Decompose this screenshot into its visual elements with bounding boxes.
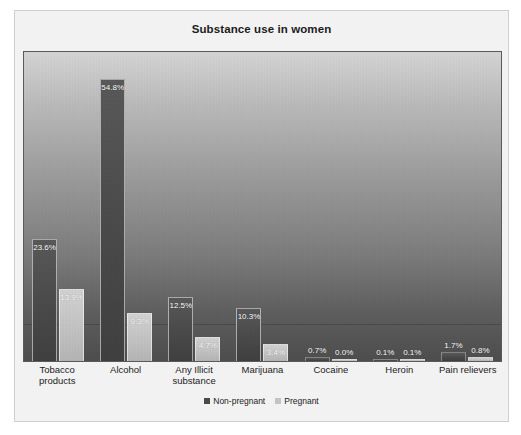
- legend-swatch-icon: [204, 398, 210, 404]
- x-axis-label: Heroin: [365, 364, 433, 386]
- bar-value-label: 9.3%: [131, 317, 149, 326]
- bar-value-label: 23.6%: [33, 243, 56, 252]
- bar[interactable]: 4.7%: [195, 337, 220, 361]
- bar[interactable]: 0.8%: [468, 357, 493, 361]
- plot-area: 23.6%13.9%54.8%9.3%12.5%4.7%10.3%3.4%0.7…: [23, 51, 502, 362]
- legend-item[interactable]: Pregnant: [275, 396, 319, 406]
- bar-value-label: 3.4%: [267, 348, 285, 357]
- chart-title: Substance use in women: [15, 23, 508, 35]
- bar-pair: 54.8%9.3%: [92, 52, 160, 361]
- bar-groups: 23.6%13.9%54.8%9.3%12.5%4.7%10.3%3.4%0.7…: [24, 52, 501, 361]
- x-axis-label: Any Illicitsubstance: [160, 364, 228, 386]
- bar-value-label: 0.1%: [376, 348, 394, 357]
- bar-value-label: 10.3%: [238, 312, 261, 321]
- bar-value-label: 4.7%: [199, 341, 217, 350]
- bar-pair: 1.7%0.8%: [433, 52, 501, 361]
- bar-group: 12.5%4.7%: [160, 52, 228, 361]
- bar-value-label: 1.7%: [444, 341, 462, 350]
- bar[interactable]: 0.7%: [305, 357, 330, 361]
- x-axis-label: Tobaccoproducts: [23, 364, 91, 386]
- bar[interactable]: 13.9%: [59, 289, 84, 361]
- chart-card: Substance use in women 23.6%13.9%54.8%9.…: [14, 10, 509, 422]
- bar-group: 23.6%13.9%: [24, 52, 92, 361]
- bar-pair: 10.3%3.4%: [228, 52, 296, 361]
- bar-group: 10.3%3.4%: [228, 52, 296, 361]
- x-axis-label: Alcohol: [91, 364, 159, 386]
- legend-item[interactable]: Non-pregnant: [204, 396, 265, 406]
- bar[interactable]: 12.5%: [168, 297, 193, 361]
- bar[interactable]: 3.4%: [263, 344, 288, 362]
- bar-value-label: 12.5%: [170, 301, 193, 310]
- bar[interactable]: 9.3%: [127, 313, 152, 361]
- bar-pair: 0.1%0.1%: [365, 52, 433, 361]
- x-axis-labels: TobaccoproductsAlcoholAny Illicitsubstan…: [23, 364, 502, 386]
- chart-legend: Non-pregnantPregnant: [15, 396, 508, 406]
- bar-value-label: 13.9%: [60, 293, 83, 302]
- bar[interactable]: 0.1%: [400, 359, 425, 361]
- bar[interactable]: 1.7%: [441, 352, 466, 361]
- bar-pair: 0.7%0.0%: [297, 52, 365, 361]
- bar-group: 54.8%9.3%: [92, 52, 160, 361]
- x-axis-label: Cocaine: [297, 364, 365, 386]
- legend-swatch-icon: [275, 398, 281, 404]
- x-axis-label: Pain relievers: [434, 364, 502, 386]
- chart-page: Substance use in women 23.6%13.9%54.8%9.…: [0, 0, 521, 435]
- bar-group: 0.1%0.1%: [365, 52, 433, 361]
- bar-pair: 12.5%4.7%: [160, 52, 228, 361]
- bar-group: 0.7%0.0%: [297, 52, 365, 361]
- bar-value-label: 0.0%: [335, 348, 353, 357]
- bar[interactable]: 23.6%: [32, 239, 57, 361]
- legend-label: Non-pregnant: [213, 396, 265, 406]
- legend-label: Pregnant: [284, 396, 319, 406]
- bar-value-label: 0.8%: [471, 346, 489, 355]
- bar[interactable]: 0.1%: [373, 359, 398, 361]
- bar[interactable]: 10.3%: [236, 308, 261, 361]
- bar-value-label: 0.1%: [403, 348, 421, 357]
- x-axis-label: Marijuana: [228, 364, 296, 386]
- bar-group: 1.7%0.8%: [433, 52, 501, 361]
- bar[interactable]: 54.8%: [100, 79, 125, 361]
- bar-value-label: 0.7%: [308, 346, 326, 355]
- bar-pair: 23.6%13.9%: [24, 52, 92, 361]
- bar[interactable]: 0.0%: [332, 359, 357, 361]
- bar-value-label: 54.8%: [101, 83, 124, 92]
